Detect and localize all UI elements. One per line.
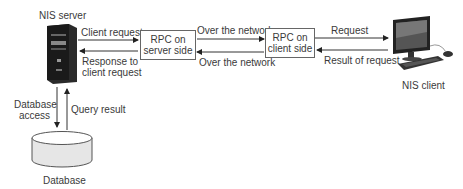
client-request-label: Client request: [81, 27, 143, 38]
server-label: NIS server: [39, 10, 86, 21]
rpc-client-side-box: RPC on client side: [265, 28, 315, 58]
rpc-server-line2: server side: [141, 45, 195, 56]
request-label: Request: [331, 25, 368, 36]
rpc-client-line2: client side: [266, 43, 314, 54]
db-access-label-line1: Database: [14, 99, 50, 110]
rpc-client-line1: RPC on: [266, 32, 314, 43]
server-tower-icon: [43, 24, 79, 84]
db-access-label-line2: access: [14, 110, 50, 121]
desktop-computer-icon: [388, 14, 458, 72]
response-label-line1: Response to: [82, 56, 138, 67]
database-label: Database: [43, 175, 86, 186]
rpc-server-line1: RPC on: [141, 34, 195, 45]
over-network-top-label: Over the network: [197, 25, 273, 36]
over-network-bottom-label: Over the network: [199, 57, 275, 68]
response-label-line2: client request: [82, 67, 141, 78]
query-result-label: Query result: [71, 104, 125, 115]
client-label: NIS client: [402, 80, 445, 91]
rpc-server-side-box: RPC on server side: [140, 30, 196, 60]
database-cylinder-icon: [30, 130, 94, 170]
